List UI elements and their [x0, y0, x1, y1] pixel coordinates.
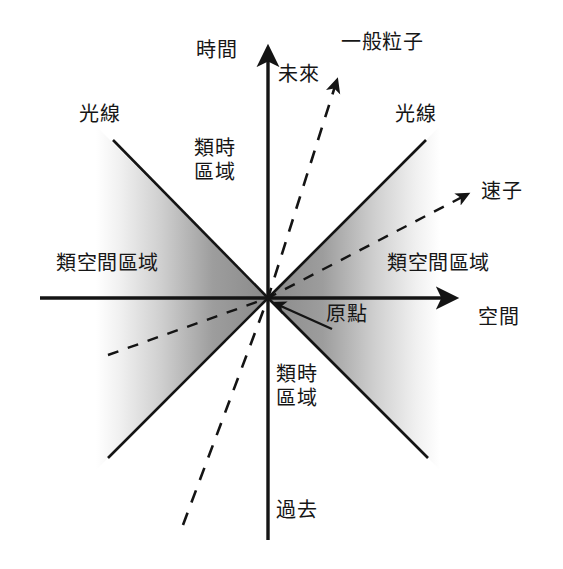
timelike-upper-line2: 區域 [194, 160, 278, 184]
ordinary-particle-label: 一般粒子 [341, 30, 423, 54]
origin-label: 原點 [326, 302, 367, 326]
light-ray-right-label: 光線 [395, 102, 436, 126]
timelike-lower-line1: 類時 [276, 362, 360, 386]
timelike-upper-line1: 類時 [194, 136, 278, 160]
future-direction-label: 未來 [278, 62, 319, 86]
spacelike-region-left-label: 類空間區域 [56, 251, 159, 275]
past-direction-label: 過去 [276, 498, 317, 522]
spacetime-diagram-figure: 時間 未來 一般粒子 光線 光線 類時 區域 速子 類空間區域 類空間區域 原點… [0, 0, 563, 569]
spacelike-region-right-label: 類空間區域 [387, 251, 490, 275]
tachyon-label: 速子 [481, 179, 522, 203]
y-axis-label: 時間 [196, 38, 237, 62]
timelike-region-lower-label: 類時 區域 [276, 362, 360, 411]
timelike-lower-line2: 區域 [276, 386, 360, 410]
x-axis-label: 空間 [478, 305, 519, 329]
light-ray-left-label: 光線 [79, 102, 120, 126]
timelike-region-upper-label: 類時 區域 [194, 136, 278, 185]
